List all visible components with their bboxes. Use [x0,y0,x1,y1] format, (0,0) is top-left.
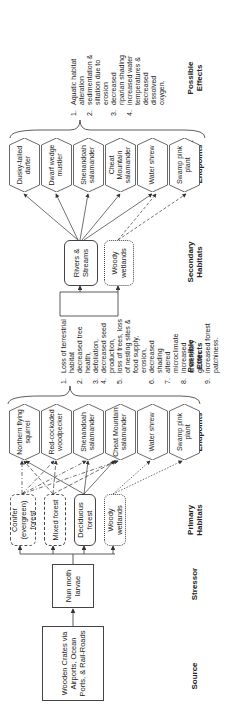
effect-item: 1.Loss of terrestrial habitat [60,318,76,384]
possible-effects-list-1: 1.Loss of terrestrial habitat 2.decrease… [60,318,220,384]
effect-item: 8.increased understory growth [180,318,204,384]
header-secondary-habitats: Secondary Habitats [186,230,204,294]
habitat-woody-wetlands: Woody wetlands [104,494,126,546]
effect-item: erosion, [140,318,148,384]
header-source: Source [190,646,199,706]
endpoint-swamp-pink-plant-1: Swamp pink plant [169,404,199,460]
endpoint-water-shrew-2: Water shrew [137,138,167,192]
endpoint-swamp-pink-plant-2: Swamp pink plant [169,138,199,192]
effect-item: 3.defoliation, [92,318,100,384]
effect-item: 2.sedimentation & siltation due to erosi… [86,52,110,116]
endpoint-cheat-mountain-salamander-2: Cheat Mountain salamander [105,138,135,192]
habitat-rivers-streams: Rivers & Streams [64,240,98,286]
effect-item: 4.decreased seed production, [100,318,116,384]
effect-item: 3.decreased riparian shading [110,52,126,116]
source-box: Wooden Crates via Airports, Ocean Ports,… [42,626,104,701]
header-stressor: Stressor [190,554,199,614]
effect-item: 9.increased forest patchiness. [204,318,220,384]
effect-item: 6.decreased shading [148,318,164,384]
endpoint-shenandoah-salamander-2: Shenandoah salamander [73,138,103,192]
endpoint-northern-flying-squirrel: Northern flying squirrel [9,404,39,460]
header-primary-habitats: Primary Habitats [186,490,204,550]
endpoint-red-cockaded-woodpecker: Red-cockaded woodpecker [41,404,71,460]
stressor-box: Nun moth larvae [52,564,94,608]
endpoint-shenandoah-salamander-1: Shenandoah salamander [73,404,103,460]
habitat-deciduous-forest: Deciduous forest [74,494,96,546]
possible-effects-list-2: 1.Aquatic habitat alteration 2.sedimenta… [70,52,166,116]
effect-item: 5.loss of trees, loss of nesting sites &… [116,318,140,384]
habitat-mixed-forest: Mixed forest [44,494,66,546]
endpoint-cheat-mountain-salamander-1: Cheat Mountain salamander [105,404,135,460]
header-possible-effects-2: Possible Effects [186,48,204,108]
effect-item: 2.decreased tree health, [76,318,92,384]
habitat-woody-wetlands-secondary: Woody wetlands [104,240,134,286]
endpoint-water-shrew-1: Water shrew [137,404,167,460]
habitat-conifer-forest: Conifer (evergreen) forest [10,494,36,546]
effect-item: 1.Aquatic habitat alteration [70,52,86,116]
conceptual-model-diagram: Source Stressor Primary Habitats Assessm… [0,0,231,726]
effect-item: 7.altered microclimate [164,318,180,384]
endpoint-dusky-tailed-darter: Dusky-tailed darter [9,138,39,192]
effect-item: 4.increased water temperatures & decreas… [126,52,166,116]
endpoint-dwarf-wedge-mustler: Dwarf wedge mustler [41,138,71,192]
